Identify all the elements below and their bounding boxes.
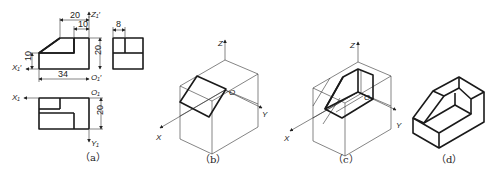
axis-y-b: Y	[262, 110, 268, 119]
origin-o1-label: O₁′	[91, 73, 102, 82]
axis-y1-label: Y₁	[91, 139, 99, 148]
axis-x1-label: X₁′	[11, 63, 22, 72]
panel-c: Z X Y O （c）	[283, 41, 402, 165]
front-view: 20 10 20 10 34 Z₁′ X₁′ O₁′	[11, 10, 103, 82]
caption-a: （a）	[80, 152, 106, 163]
axis-z1-label: Z₁′	[90, 10, 100, 19]
axis-z-b: Z	[217, 39, 224, 48]
drawing-figure: 20 10 20 10 34 Z₁′ X₁′ O₁′ 8	[0, 0, 496, 178]
figure-canvas: 20 10 20 10 34 Z₁′ X₁′ O₁′ 8	[0, 0, 496, 178]
dim-10-step: 10	[78, 19, 88, 29]
origin-o-c: O	[364, 93, 370, 102]
axis-z-c: Z	[349, 41, 356, 50]
axis-y-c: Y	[396, 121, 402, 130]
side-view: 8	[113, 19, 143, 69]
dim-10-left: 10	[23, 51, 33, 61]
dim-8-side: 8	[116, 19, 121, 29]
panel-d: （d）	[413, 77, 484, 165]
caption-b: （b）	[200, 154, 226, 165]
caption-d: （d）	[436, 154, 462, 165]
axis-x-b: X	[155, 133, 162, 142]
caption-c: （c）	[333, 154, 359, 165]
top-view: 20 X₁ O₁ Y₁	[11, 88, 105, 148]
panel-a: 20 10 20 10 34 Z₁′ X₁′ O₁′ 8	[11, 10, 143, 163]
origin-o-b: O	[229, 88, 235, 97]
dim-20-depth: 20	[95, 105, 105, 115]
axis-x-c: X	[283, 134, 290, 143]
panel-b: Z X Y O （b）	[155, 39, 268, 165]
dim-20-height: 20	[93, 45, 103, 55]
origin-o1-top-label: O₁	[91, 88, 100, 97]
axis-x1-top-label: X₁	[11, 93, 20, 102]
dim-34-width: 34	[58, 69, 68, 79]
